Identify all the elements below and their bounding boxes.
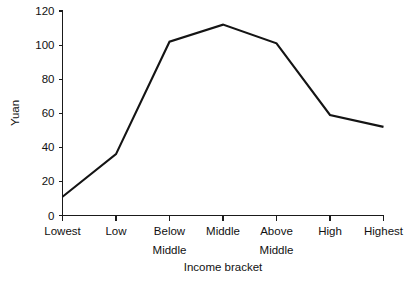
x-tick-label-4-line2: Middle [260, 244, 294, 256]
x-tick-label-2-line2: Middle [153, 244, 187, 256]
x-tick-label-3: Middle [206, 225, 240, 237]
y-tick-label-60: 60 [42, 107, 55, 119]
y-tick-label-40: 40 [42, 141, 55, 153]
x-tick-label-1: Low [105, 225, 127, 237]
y-axis-title: Yuan [9, 100, 21, 126]
x-tick-label-4: Above [260, 225, 293, 237]
x-tick-label-5: High [318, 225, 342, 237]
line-chart: 020406080100120 LowestLowBelowMiddleMidd… [0, 0, 410, 285]
x-axis-title: Income bracket [184, 261, 263, 273]
y-tick-label-20: 20 [42, 175, 55, 187]
y-tick-label-100: 100 [35, 39, 54, 51]
y-tick-label-120: 120 [35, 5, 54, 17]
x-tick-label-2: Below [154, 225, 186, 237]
chart-canvas: 020406080100120 LowestLowBelowMiddleMidd… [0, 0, 410, 285]
x-tick-label-6: Highest [364, 225, 404, 237]
y-tick-label-80: 80 [42, 73, 55, 85]
chart-background [0, 0, 410, 285]
x-tick-label-0: Lowest [44, 225, 81, 237]
y-tick-label-0: 0 [48, 210, 54, 222]
